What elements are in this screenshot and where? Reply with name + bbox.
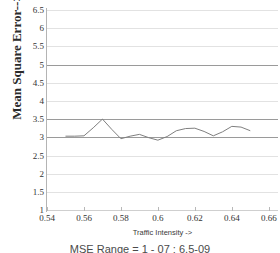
y-tick-label: 1.5 bbox=[18, 187, 44, 197]
x-axis-line bbox=[47, 210, 278, 211]
x-tick-mark bbox=[158, 207, 159, 211]
x-tick-label: 0.66 bbox=[252, 213, 280, 223]
y-tick-label: 4 bbox=[18, 96, 44, 106]
y-tick-label: 5.5 bbox=[18, 41, 44, 51]
x-tick-label: 0.62 bbox=[178, 213, 212, 223]
figure-caption: MSE Range = 1 - 07 : 6.5-09 bbox=[0, 243, 280, 253]
y-tick-label: 5 bbox=[18, 60, 44, 70]
x-tick-mark bbox=[232, 207, 233, 211]
y-axis-tick-labels: 6.565.554.543.532.521.51 bbox=[18, 4, 44, 216]
y-tick-label: 2.5 bbox=[18, 151, 44, 161]
chart-figure: Mean Square Error--> 6.565.554.543.532.5… bbox=[0, 0, 280, 253]
x-tick-mark bbox=[195, 207, 196, 211]
x-tick-label: 0.54 bbox=[30, 213, 64, 223]
y-tick-label: 3 bbox=[18, 132, 44, 142]
plot-area bbox=[47, 10, 278, 210]
x-tick-mark bbox=[269, 207, 270, 211]
y-tick-label: 3.5 bbox=[18, 114, 44, 124]
x-tick-label: 0.58 bbox=[104, 213, 138, 223]
y-tick-label: 6.5 bbox=[18, 5, 44, 15]
y-tick-label: 2 bbox=[18, 169, 44, 179]
x-tick-mark bbox=[84, 207, 85, 211]
y-tick-label: 4.5 bbox=[18, 78, 44, 88]
x-tick-mark bbox=[47, 207, 48, 211]
x-tick-label: 0.64 bbox=[215, 213, 249, 223]
x-tick-label: 0.56 bbox=[67, 213, 101, 223]
series-line-mse bbox=[47, 10, 278, 210]
x-tick-mark bbox=[121, 207, 122, 211]
x-axis-title: Traffic Intensity -> bbox=[47, 228, 278, 237]
y-tick-label: 6 bbox=[18, 23, 44, 33]
x-tick-label: 0.6 bbox=[141, 213, 175, 223]
